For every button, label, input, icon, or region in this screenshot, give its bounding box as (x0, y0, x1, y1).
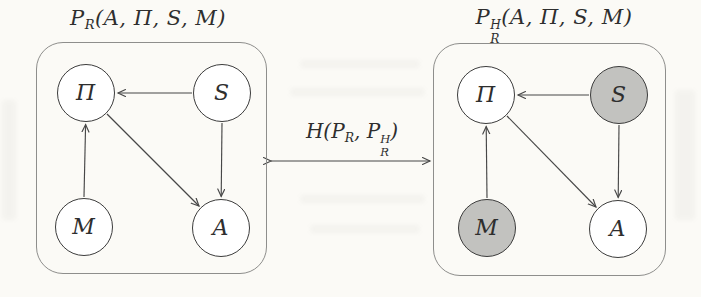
right-title-superscript: H (490, 19, 501, 33)
left-node-m: M (55, 198, 113, 256)
right-title-args: (A, Π, S, M) (501, 5, 632, 29)
left-node-m-label: M (72, 216, 95, 238)
right-node-s: S (590, 66, 648, 124)
left-node-s-label: S (214, 82, 229, 104)
right-node-pi-label: Π (476, 84, 495, 106)
divergence-arg2-superscript: H (380, 133, 390, 146)
divergence-label: H(PR, PHR) (278, 119, 426, 159)
left-node-pi: Π (57, 64, 115, 122)
scan-bleed-artifact (300, 60, 420, 68)
left-title-subscript: R (85, 17, 95, 32)
divergence-separator: , (354, 119, 367, 143)
divergence-close-paren: ) (390, 119, 398, 143)
left-model-title: PR(A, Π, S, M) (60, 6, 236, 32)
scan-bleed-artifact (290, 88, 425, 96)
left-node-a: A (192, 199, 250, 257)
right-node-a: A (589, 200, 647, 258)
divergence-open-paren: ( (323, 119, 331, 143)
right-title-base: P (476, 5, 491, 29)
right-node-m-label: M (475, 217, 498, 239)
right-node-pi: Π (457, 66, 515, 124)
left-node-s: S (193, 64, 251, 122)
left-node-pi-label: Π (76, 82, 95, 104)
left-title-args: (A, Π, S, M) (95, 6, 226, 30)
scan-bleed-artifact (310, 225, 420, 233)
right-model-title: PHR(A, Π, S, M) (463, 5, 645, 46)
right-node-s-label: S (611, 84, 626, 106)
scan-bleed-artifact (675, 90, 695, 220)
divergence-arg2-base: P (367, 119, 380, 143)
scan-bleed-artifact (300, 195, 425, 203)
divergence-arg2-subscript: R (380, 146, 389, 159)
left-title-base: P (70, 6, 85, 30)
divergence-arg1-base: P (331, 119, 344, 143)
right-node-a-label: A (610, 218, 626, 240)
right-node-m: M (458, 199, 516, 257)
divergence-arg2-supsub: HR (380, 133, 390, 159)
divergence-base: H (306, 119, 323, 143)
divergence-arg1-subscript: R (345, 130, 354, 145)
scan-bleed-artifact (2, 100, 16, 220)
left-node-a-label: A (213, 217, 229, 239)
figure-canvas: PR(A, Π, S, M) PHR(A, Π, S, M) Π S M A Π… (0, 0, 701, 297)
